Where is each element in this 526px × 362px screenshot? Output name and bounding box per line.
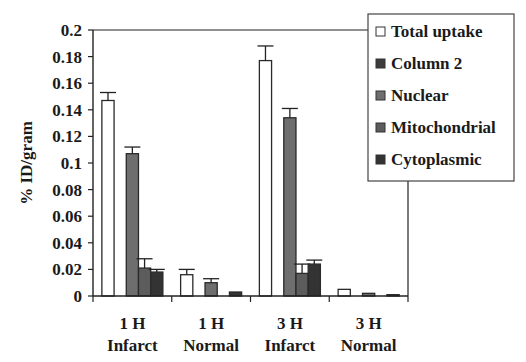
plot-area (100, 46, 399, 296)
legend-swatch-icon (376, 123, 385, 132)
y-tick-label: 0.06 (52, 207, 82, 226)
bar-mitochondrial (296, 273, 308, 296)
legend-label: Total uptake (391, 22, 483, 41)
x-tick-label-line1: 1 H (198, 314, 224, 333)
bar-chart: 00.020.040.060.080.10.120.140.160.180.2 … (0, 0, 526, 362)
y-tick-label: 0.16 (52, 74, 82, 93)
bar-total-uptake (338, 289, 350, 296)
bar-mitochondrial (138, 268, 150, 296)
y-tick-label: 0 (74, 287, 83, 306)
y-axis-label: % ID/gram (17, 121, 36, 205)
legend: Total uptakeColumn 2NuclearMitochondrial… (368, 14, 514, 181)
x-tick-label-line2: Normal (183, 336, 239, 355)
bar-nuclear (126, 154, 138, 296)
legend-swatch-icon (376, 27, 385, 36)
bar-total-uptake (259, 61, 271, 296)
x-tick-label-line1: 3 H (277, 314, 303, 333)
x-tick-label-line2: Infarct (265, 336, 316, 355)
y-tick-label: 0.02 (52, 260, 82, 279)
legend-label: Cytoplasmic (391, 150, 482, 169)
y-tick-label: 0.2 (61, 21, 82, 40)
bar-cytoplasmic (151, 272, 163, 296)
legend-swatch-icon (376, 59, 385, 68)
legend-label: Nuclear (391, 86, 449, 105)
x-tick-label-line1: 1 H (119, 314, 145, 333)
bar-nuclear (284, 118, 296, 296)
x-tick-label-line2: Infarct (107, 336, 158, 355)
y-tick-label: 0.14 (52, 101, 82, 120)
x-tick-label-line2: Normal (341, 336, 397, 355)
legend-label: Column 2 (391, 54, 462, 73)
bar-total-uptake (181, 275, 193, 296)
x-tick-label-line1: 3 H (356, 314, 382, 333)
y-tick-label: 0.04 (52, 234, 82, 253)
legend-label: Mitochondrial (391, 118, 496, 137)
bar-nuclear (205, 283, 217, 296)
bar-total-uptake (102, 100, 114, 296)
x-axis: 1 HInfarct1 HNormal3 HInfarct3 HNormal (93, 296, 408, 355)
y-tick-label: 0.18 (52, 48, 82, 67)
y-tick-label: 0.08 (52, 181, 82, 200)
y-tick-label: 0.12 (52, 127, 82, 146)
legend-swatch-icon (376, 91, 385, 100)
y-tick-label: 0.1 (61, 154, 82, 173)
bar-cytoplasmic (308, 264, 320, 296)
legend-swatch-icon (376, 155, 385, 164)
